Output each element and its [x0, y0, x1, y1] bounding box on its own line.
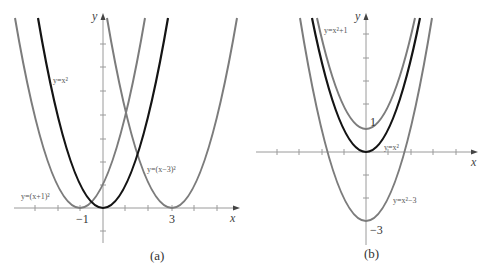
panel-a-axes — [14, 18, 236, 243]
panel-b-x-axis-label: x — [470, 155, 477, 169]
panel-a: y x −1 3 y=x² y=(x+1)² y=(x−3)² (a) — [14, 9, 240, 263]
panel-b-tick-label-neg3: −3 — [370, 223, 383, 237]
panel-a-tick-label-neg1: −1 — [76, 212, 89, 226]
panel-a-x-arrow-icon — [233, 206, 240, 211]
panel-a-curve-x-minus-3-squared — [107, 18, 237, 208]
panel-b-axes — [256, 18, 474, 245]
panel-b-y-axis-label: y — [354, 9, 361, 23]
panel-a-curve-label-x-squared: y=x² — [53, 76, 69, 85]
panel-b-y-arrow-icon — [364, 13, 369, 20]
panel-a-y-arrow-icon — [101, 13, 106, 20]
panel-a-x-axis-label: x — [229, 211, 236, 225]
panel-a-curve-label-x-plus-1-squared: y=(x+1)² — [21, 192, 50, 201]
panel-a-caption: (a) — [150, 248, 164, 263]
panel-a-y-axis-label: y — [91, 9, 98, 23]
panel-b-curve-label-x-squared-plus-1: y=x²+1 — [324, 26, 347, 35]
panel-b-x-arrow-icon — [471, 150, 478, 155]
panel-b-caption: (b) — [364, 246, 379, 261]
panel-b: y x 1 −3 y=x²+1 y=x² y=x²−3 (b) — [256, 9, 478, 261]
panel-b-tick-label-1: 1 — [370, 115, 376, 129]
panel-a-tick-label-3: 3 — [169, 212, 175, 226]
panel-b-curve-label-x-squared: y=x² — [384, 143, 400, 152]
parabola-shift-figure: y x −1 3 y=x² y=(x+1)² y=(x−3)² (a) — [0, 0, 491, 270]
panel-a-curve-label-x-minus-3-squared: y=(x−3)² — [147, 165, 176, 174]
panel-b-curve-label-x-squared-minus-3: y=x²−3 — [393, 196, 416, 205]
